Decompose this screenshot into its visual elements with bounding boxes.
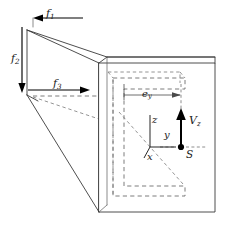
eccentricity-label: ey (142, 89, 152, 100)
figure-canvas: f1 f2 f3 ey Vz S z y x (0, 0, 230, 231)
shear-center-label: S (186, 149, 193, 160)
front-end-slab (99, 57, 215, 212)
force-f1-label: f1 (46, 8, 55, 20)
front-face-fill (99, 63, 215, 212)
shear-center-dot (178, 144, 184, 150)
shear-force-label: Vz (189, 115, 201, 127)
axis-x-label: x (147, 152, 153, 162)
axis-z-label: z (152, 115, 157, 125)
force-f3-label: f3 (53, 78, 62, 90)
axis-y-label: y (164, 130, 170, 140)
force-f2-label: f2 (11, 53, 20, 65)
